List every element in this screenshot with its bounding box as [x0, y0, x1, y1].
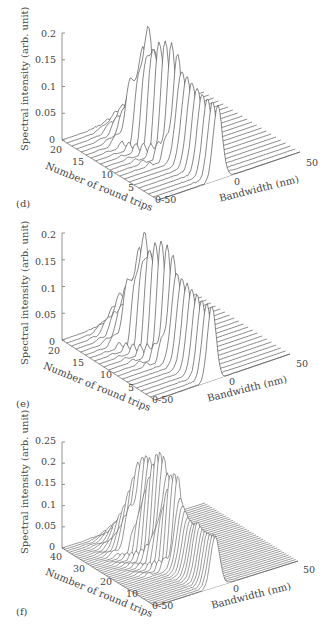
- y-tick: 15: [72, 358, 84, 368]
- z-tick: 0.1: [41, 284, 56, 294]
- z-axis-label: Spectral intensity (arb. unit): [19, 6, 30, 151]
- y-tick: 30: [73, 564, 85, 574]
- y-tick: 20: [48, 346, 60, 356]
- z-tick: 0.1: [41, 82, 56, 92]
- z-tick: 0.2: [41, 457, 56, 467]
- z-tick: 0.1: [41, 500, 56, 510]
- panel-label: (d): [16, 199, 30, 209]
- z-tick: 0.05: [35, 521, 56, 531]
- y-tick: 5: [128, 383, 134, 393]
- z-tick: 0.2: [41, 230, 56, 240]
- z-tick: 0.2: [41, 29, 56, 39]
- z-tick: 0.15: [35, 478, 56, 488]
- chart-panel-f: Spectral intensity (arb. unit) 0.25 0.2 …: [0, 426, 330, 639]
- z-axis-label: Spectral intensity (arb. unit): [19, 409, 30, 554]
- x-tick: -50: [161, 195, 176, 205]
- z-tick: 0.05: [35, 310, 56, 320]
- y-tick: 5: [128, 183, 134, 193]
- z-tick: 0.25: [35, 436, 56, 446]
- panel-label: (f): [16, 607, 28, 617]
- panel-label: (e): [16, 399, 30, 409]
- chart-panel-e: Spectral intensity (arb. unit) 0.2 0.15 …: [0, 213, 330, 426]
- y-tick: 15: [72, 157, 84, 167]
- z-tick: 0.15: [35, 257, 56, 267]
- y-tick: 10: [100, 370, 112, 380]
- x-tick: 50: [296, 359, 308, 369]
- z-tick: 0.05: [35, 108, 56, 118]
- y-tick: 10: [126, 589, 138, 599]
- y-tick: 20: [50, 145, 62, 155]
- x-tick: -50: [158, 601, 173, 611]
- y-tick: 40: [50, 552, 62, 562]
- x-tick: 50: [306, 158, 318, 168]
- z-tick: 0.15: [35, 55, 56, 65]
- x-tick: 0: [234, 177, 240, 187]
- z-axis-label: Spectral intensity (arb. unit): [19, 220, 30, 365]
- x-tick: -50: [158, 395, 173, 405]
- chart-panel-d: Spectral intensity (arb. unit) 0.2 0.15 …: [0, 0, 330, 213]
- y-tick: 10: [101, 170, 113, 180]
- x-tick: 50: [303, 565, 315, 575]
- y-tick: 20: [100, 577, 112, 587]
